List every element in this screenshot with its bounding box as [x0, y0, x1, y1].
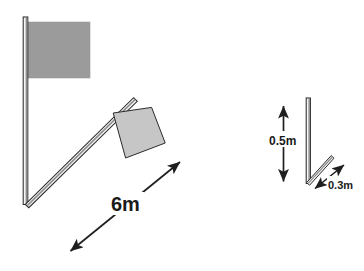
diagram-canvas: 6m 0.5m: [0, 0, 364, 271]
left-view-group: 6m: [23, 17, 180, 251]
vertical-flagpole: [23, 17, 28, 205]
height-dimension-label: 0.5m: [269, 134, 296, 148]
right-view-group: 0.5m 0.3m: [268, 98, 361, 191]
tilted-flag: [113, 107, 165, 158]
vertical-flagpole-shade: [26, 18, 28, 204]
large-flag: [28, 22, 90, 78]
height-dimension: 0.5m: [268, 106, 300, 182]
technical-diagram: 6m 0.5m: [0, 0, 364, 271]
length-dimension: 6m: [71, 162, 181, 251]
length-dimension-label: 6m: [111, 193, 140, 215]
offset-dimension-label: 0.3m: [328, 179, 353, 191]
detail-vertical-pole-shade: [308, 99, 310, 183]
detail-vertical-pole: [306, 98, 310, 184]
